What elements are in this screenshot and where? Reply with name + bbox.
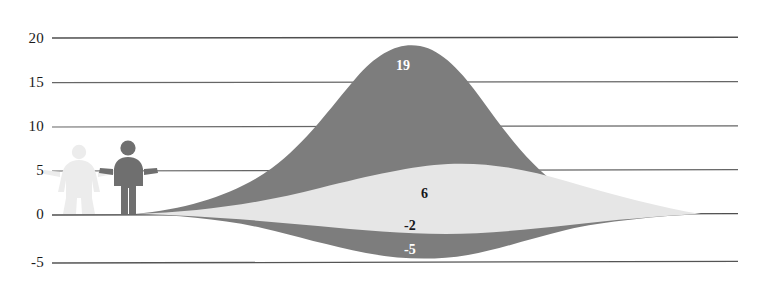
y-tick-label-5: 5 xyxy=(4,163,44,178)
wave-envelope-chart: 20 15 10 5 0 -5 19 6 -2 -5 xyxy=(0,0,764,285)
y-tick-label-15: 15 xyxy=(4,75,44,90)
chart-plot-area xyxy=(0,0,764,285)
scale-figures xyxy=(44,140,158,214)
y-tick-label-0: 0 xyxy=(4,207,44,222)
y-tick-label-10: 10 xyxy=(4,119,44,134)
y-tick-label-20: 20 xyxy=(4,31,44,46)
data-label-minus2: -2 xyxy=(404,219,416,233)
male-figure xyxy=(99,140,158,214)
gridline-minus5 xyxy=(52,261,738,263)
female-figure xyxy=(44,145,114,214)
data-label-6: 6 xyxy=(421,187,428,201)
data-label-minus5: -5 xyxy=(404,243,416,257)
gridline-20 xyxy=(52,37,738,38)
data-label-19: 19 xyxy=(396,59,410,73)
y-tick-label-minus5: -5 xyxy=(4,255,44,270)
